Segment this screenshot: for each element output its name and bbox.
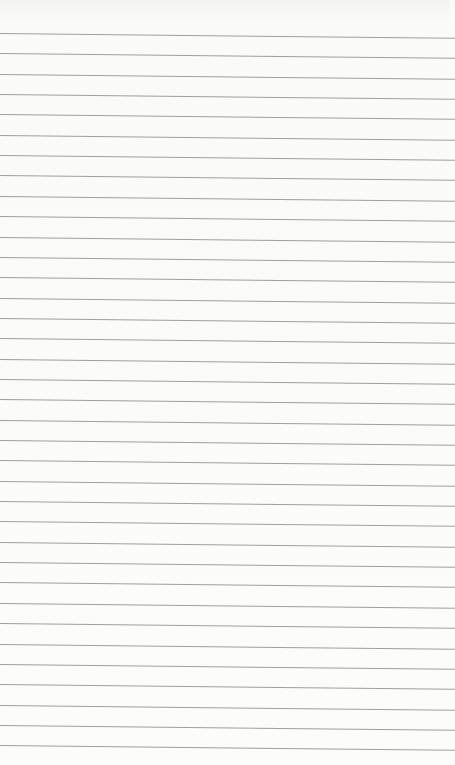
ruled-line <box>0 94 455 100</box>
ruled-line <box>0 53 455 59</box>
ruled-line <box>0 74 455 80</box>
ruled-line <box>0 440 455 446</box>
ruled-line <box>0 318 455 324</box>
ruled-line <box>0 114 455 120</box>
ruled-line <box>0 338 455 344</box>
ruled-line <box>0 521 455 527</box>
ruled-line <box>0 725 455 731</box>
ruled-line <box>0 705 455 711</box>
ruled-line <box>0 359 455 365</box>
ruled-line <box>0 155 455 161</box>
ruled-line <box>0 501 455 507</box>
ruled-line <box>0 623 455 629</box>
ruled-line <box>0 745 455 751</box>
ruled-line <box>0 582 455 588</box>
ruled-line <box>0 277 455 283</box>
ruled-line <box>0 420 455 426</box>
ruled-line <box>0 664 455 670</box>
ruled-line <box>0 379 455 385</box>
ruled-line <box>0 216 455 222</box>
ruled-line <box>0 33 455 39</box>
ruled-line <box>0 644 455 650</box>
ruled-line <box>0 196 455 202</box>
ruled-line <box>0 175 455 181</box>
ruled-line <box>0 684 455 690</box>
ruled-line <box>0 603 455 609</box>
ruled-line <box>0 135 455 141</box>
ruled-line <box>0 481 455 487</box>
ruled-line <box>0 460 455 466</box>
ruled-line <box>0 542 455 548</box>
ruled-line <box>0 257 455 263</box>
ruled-line <box>0 298 455 304</box>
ruled-line <box>0 399 455 405</box>
ruled-line <box>0 562 455 568</box>
ruled-line <box>0 237 455 243</box>
